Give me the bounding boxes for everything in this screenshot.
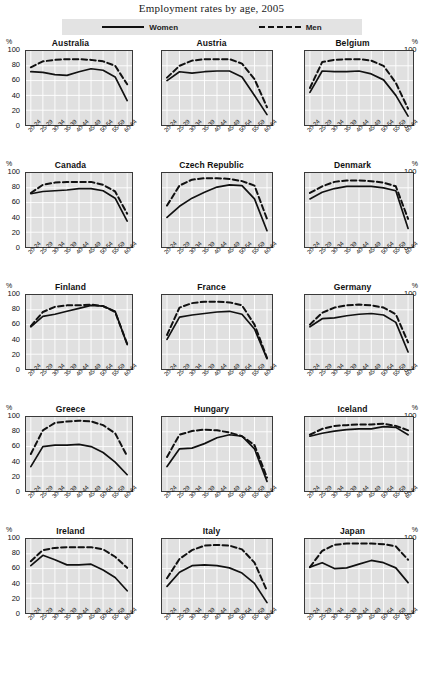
y-tick-label: 80 bbox=[12, 427, 20, 435]
y-tick-label: 60 bbox=[12, 199, 20, 207]
panel-title: Denmark bbox=[282, 160, 423, 170]
y-axis-labels-left: 100806040200 bbox=[2, 294, 20, 370]
legend-item-women: Women bbox=[102, 23, 178, 32]
panel-row: %%Ireland10080604020020-2425-2930-3435-3… bbox=[0, 524, 423, 654]
chart-panel-germany: Germany10080604020020-2425-2930-3435-394… bbox=[282, 280, 423, 402]
x-axis-labels: 20-2425-2930-3435-3940-4445-4950-5455-59… bbox=[25, 616, 133, 642]
chart-panel-austria: Austria20-2425-2930-3435-3940-4445-4950-… bbox=[141, 36, 282, 158]
x-axis-labels: 20-2425-2930-3435-3940-4445-4950-5455-59… bbox=[161, 250, 273, 276]
x-axis-labels: 20-2425-2930-3435-3940-4445-4950-5455-59… bbox=[304, 616, 414, 642]
y-tick-label: 40 bbox=[12, 580, 20, 588]
y-axis-labels-left: 100806040200 bbox=[2, 172, 20, 248]
panel-title: Hungary bbox=[141, 404, 282, 414]
y-tick-label: 20 bbox=[12, 229, 20, 237]
panel-title: Greece bbox=[0, 404, 141, 414]
plot-canvas bbox=[25, 416, 133, 492]
panel-grid: %%Australia10080604020020-2425-2930-3435… bbox=[0, 36, 423, 654]
panel-row: %%Greece10080604020020-2425-2930-3435-39… bbox=[0, 402, 423, 524]
plot-area bbox=[161, 172, 273, 248]
plot-canvas bbox=[304, 416, 414, 492]
y-tick-label: 0 bbox=[16, 122, 20, 130]
x-axis-labels: 20-2425-2930-3435-3940-4445-4950-5455-59… bbox=[304, 128, 414, 154]
plot-area bbox=[304, 294, 414, 370]
chart-panel-canada: Canada10080604020020-2425-2930-3435-3940… bbox=[0, 158, 141, 280]
x-axis-labels: 20-2425-2930-3435-3940-4445-4950-5455-59… bbox=[25, 372, 133, 398]
legend-label-women: Women bbox=[149, 23, 178, 32]
y-tick-label: 80 bbox=[12, 305, 20, 313]
panel-title: Ireland bbox=[0, 526, 141, 536]
panel-title: Australia bbox=[0, 38, 141, 48]
chart-panel-japan: Japan10080604020020-2425-2930-3435-3940-… bbox=[282, 524, 423, 654]
plot-canvas bbox=[161, 538, 273, 614]
plot-area bbox=[304, 538, 414, 614]
panel-title: Iceland bbox=[282, 404, 423, 414]
chart-panel-australia: Australia10080604020020-2425-2930-3435-3… bbox=[0, 36, 141, 158]
panel-row: %%Canada10080604020020-2425-2930-3435-39… bbox=[0, 158, 423, 280]
y-tick-label: 100 bbox=[7, 290, 20, 298]
chart-panel-ireland: Ireland10080604020020-2425-2930-3435-394… bbox=[0, 524, 141, 654]
plot-area bbox=[25, 172, 133, 248]
x-axis-labels: 20-2425-2930-3435-3940-4445-4950-5455-59… bbox=[25, 128, 133, 154]
y-tick-label: 40 bbox=[12, 336, 20, 344]
x-axis-labels: 20-2425-2930-3435-3940-4445-4950-5455-59… bbox=[304, 494, 414, 520]
x-axis-labels: 20-2425-2930-3435-3940-4445-4950-5455-59… bbox=[25, 250, 133, 276]
x-axis-labels: 20-2425-2930-3435-3940-4445-4950-5455-59… bbox=[304, 250, 414, 276]
y-tick-label: 60 bbox=[12, 77, 20, 85]
plot-area bbox=[304, 172, 414, 248]
plot-area bbox=[161, 50, 273, 126]
x-axis-labels: 20-2425-2930-3435-3940-4445-4950-5455-59… bbox=[161, 128, 273, 154]
y-tick-label: 0 bbox=[16, 488, 20, 496]
panel-title: Italy bbox=[141, 526, 282, 536]
panel-row: %%Finland10080604020020-2425-2930-3435-3… bbox=[0, 280, 423, 402]
legend-item-men: Men bbox=[259, 23, 322, 32]
plot-canvas bbox=[161, 294, 273, 370]
y-tick-label: 0 bbox=[16, 610, 20, 618]
y-tick-label: 0 bbox=[16, 366, 20, 374]
plot-area bbox=[161, 416, 273, 492]
legend: Women Men bbox=[62, 19, 362, 35]
y-tick-label: 40 bbox=[12, 92, 20, 100]
y-axis-labels-left: 100806040200 bbox=[2, 538, 20, 614]
plot-canvas bbox=[304, 538, 414, 614]
legend-label-men: Men bbox=[306, 23, 322, 32]
y-tick-label: 60 bbox=[12, 321, 20, 329]
y-tick-label: 80 bbox=[12, 183, 20, 191]
y-axis-labels-left: 100806040200 bbox=[2, 50, 20, 126]
y-tick-label: 0 bbox=[16, 244, 20, 252]
x-axis-labels: 20-2425-2930-3435-3940-4445-4950-5455-59… bbox=[161, 372, 273, 398]
plot-area bbox=[25, 538, 133, 614]
page-title: Employment rates by age, 2005 bbox=[0, 2, 423, 14]
panel-title: Finland bbox=[0, 282, 141, 292]
dashed-line-icon bbox=[259, 26, 301, 28]
panel-title: Germany bbox=[282, 282, 423, 292]
plot-canvas bbox=[25, 538, 133, 614]
x-axis-labels: 20-2425-2930-3435-3940-4445-4950-5455-59… bbox=[304, 372, 414, 398]
panel-title: Japan bbox=[282, 526, 423, 536]
chart-panel-czech-republic: Czech Republic20-2425-2930-3435-3940-444… bbox=[141, 158, 282, 280]
plot-canvas bbox=[161, 50, 273, 126]
plot-canvas bbox=[304, 294, 414, 370]
x-axis-labels: 20-2425-2930-3435-3940-4445-4950-5455-59… bbox=[161, 616, 273, 642]
panel-title: Belgium bbox=[282, 38, 423, 48]
plot-canvas bbox=[304, 172, 414, 248]
y-tick-label: 40 bbox=[12, 214, 20, 222]
chart-panel-belgium: Belgium10080604020020-2425-2930-3435-394… bbox=[282, 36, 423, 158]
chart-panel-finland: Finland10080604020020-2425-2930-3435-394… bbox=[0, 280, 141, 402]
plot-canvas bbox=[25, 50, 133, 126]
plot-area bbox=[25, 50, 133, 126]
plot-area bbox=[25, 294, 133, 370]
plot-area bbox=[25, 416, 133, 492]
y-tick-label: 20 bbox=[12, 595, 20, 603]
chart-panel-iceland: Iceland10080604020020-2425-2930-3435-394… bbox=[282, 402, 423, 524]
chart-panel-hungary: Hungary20-2425-2930-3435-3940-4445-4950-… bbox=[141, 402, 282, 524]
y-axis-labels-left: 100806040200 bbox=[2, 416, 20, 492]
chart-panel-denmark: Denmark10080604020020-2425-2930-3435-394… bbox=[282, 158, 423, 280]
plot-canvas bbox=[25, 172, 133, 248]
panel-title: France bbox=[141, 282, 282, 292]
y-tick-label: 100 bbox=[7, 534, 20, 542]
panel-row: %%Australia10080604020020-2425-2930-3435… bbox=[0, 36, 423, 158]
y-tick-label: 100 bbox=[7, 168, 20, 176]
y-tick-label: 100 bbox=[7, 412, 20, 420]
plot-canvas bbox=[304, 50, 414, 126]
y-tick-label: 20 bbox=[12, 473, 20, 481]
